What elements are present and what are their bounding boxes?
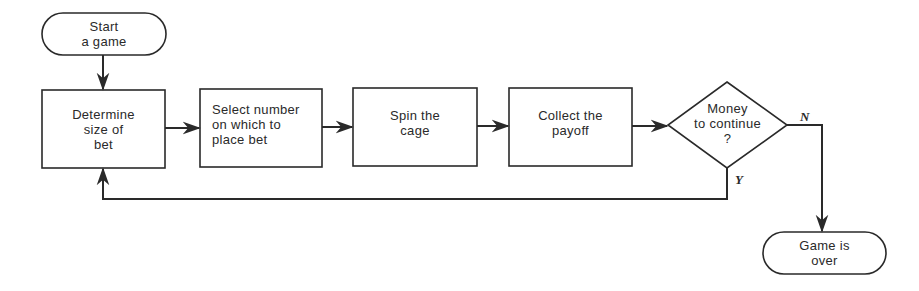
determine-bet-label: Determine size of bet [42, 90, 165, 168]
spin-cage-label: Spin the cage [353, 88, 477, 158]
game-over-terminator-label: Game is over [763, 232, 886, 274]
start-terminator-label: Start a game [42, 13, 166, 55]
branch-label-no: N [800, 109, 809, 125]
edge-decision-no-to-game-over [787, 125, 822, 231]
edge-decision-yes-loop-back [103, 168, 727, 199]
select-number-label: Select number on which to place bet [200, 89, 322, 159]
money-decision-label: Money to continue ? [668, 95, 787, 151]
collect-payoff-label: Collect the payoff [509, 88, 632, 158]
branch-label-yes: Y [735, 172, 743, 188]
